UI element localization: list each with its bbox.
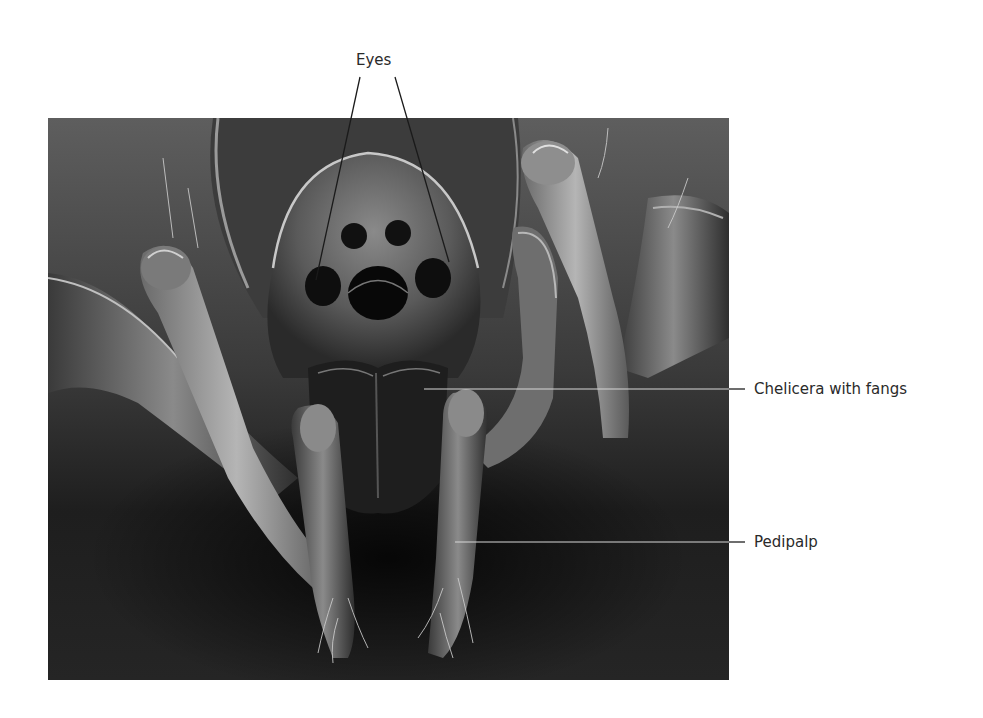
labeled-spider-figure: Eyes Chelicera with fangs Pedipalp xyxy=(0,0,983,718)
eyes-label: Eyes xyxy=(356,51,391,69)
pedipalp-label: Pedipalp xyxy=(754,533,818,551)
spider-sem-photo xyxy=(48,118,729,680)
chelicera-label: Chelicera with fangs xyxy=(754,380,907,398)
